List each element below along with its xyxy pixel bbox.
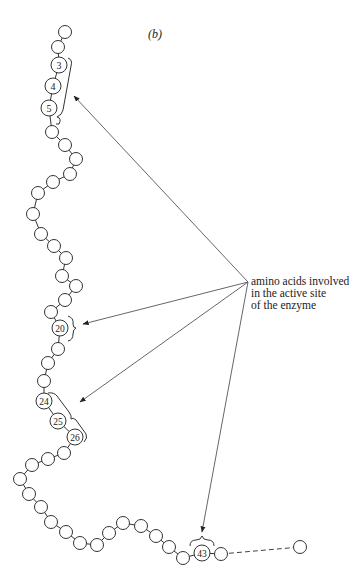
residue — [32, 187, 45, 200]
residue — [35, 228, 48, 241]
arrow-to-residues-3-5 — [74, 96, 248, 282]
residue-number: 24 — [39, 397, 49, 407]
residue — [47, 176, 60, 189]
residue — [59, 294, 72, 307]
residue — [52, 41, 65, 54]
residue — [59, 26, 72, 39]
residue — [45, 306, 58, 319]
annotation-line-1: amino acids involved — [251, 275, 349, 287]
residue — [26, 459, 39, 472]
residue — [91, 539, 104, 552]
brackets — [48, 58, 214, 546]
dashed-chain-continuation — [221, 547, 300, 554]
residue-number: 25 — [53, 417, 63, 427]
residue — [150, 530, 163, 543]
residue-number: 43 — [197, 549, 207, 559]
residue — [70, 280, 83, 293]
residue — [42, 357, 55, 370]
residue — [60, 526, 73, 539]
residue — [14, 473, 27, 486]
residue — [23, 488, 36, 501]
residue — [56, 270, 69, 283]
residue — [215, 548, 228, 561]
residue-number: 26 — [70, 433, 80, 443]
arrow-to-residues-24-26 — [80, 282, 248, 402]
residue — [46, 126, 59, 139]
residue — [58, 447, 71, 460]
residue — [294, 541, 307, 554]
residue — [117, 517, 130, 530]
residue — [70, 153, 83, 166]
residue — [45, 516, 58, 529]
residue — [74, 537, 87, 550]
arrow-to-residue-43 — [202, 282, 248, 532]
bracket-residue-20 — [68, 316, 76, 341]
residue-number: 3 — [57, 60, 62, 71]
residue — [42, 453, 55, 466]
panel-label: (b) — [148, 27, 162, 42]
residue — [163, 541, 176, 554]
residue — [60, 252, 73, 265]
residue-number: 20 — [55, 324, 65, 334]
arrow-to-residue-20 — [83, 282, 248, 324]
residue — [135, 520, 148, 533]
arrows — [74, 96, 248, 532]
residue — [177, 552, 190, 565]
annotation-line-2: in the active site — [251, 287, 349, 299]
residue — [64, 168, 77, 181]
residue — [38, 375, 51, 388]
residue — [35, 501, 48, 514]
residue-number: 5 — [47, 103, 52, 114]
residue — [27, 208, 40, 221]
residue — [59, 139, 72, 152]
residue — [48, 240, 61, 253]
annotation-label: amino acids involved in the active site … — [251, 275, 349, 311]
residue — [52, 343, 65, 356]
residue-number: 4 — [51, 81, 56, 92]
annotation-line-3: of the enzyme — [251, 299, 349, 311]
residue — [103, 527, 116, 540]
